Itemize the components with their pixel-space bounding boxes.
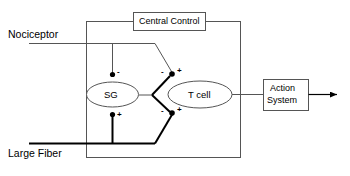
tcell-lower-synapse-dot (169, 110, 175, 116)
action-system-label-line2: System (267, 96, 297, 105)
tcell-upper-minus-sign: - (161, 68, 164, 76)
nociceptor-to-tcell-line (155, 44, 173, 75)
large-fiber-label: Large Fiber (8, 148, 62, 159)
sg-fork-upper-line (152, 76, 170, 95)
action-system-label-line1: Action (270, 84, 295, 93)
sg-bottom-synapse-dot (110, 112, 115, 117)
nociceptor-label: Nociceptor (8, 29, 58, 40)
sg-bottom-sign: + (117, 111, 122, 119)
sg-top-sign: - (117, 68, 120, 76)
sg-top-synapse-dot (110, 72, 115, 77)
sg-label: SG (104, 90, 118, 100)
tcell-upper-synapse-dot (169, 71, 175, 77)
diagram-canvas: Nociceptor Large Fiber Central Control S… (0, 0, 350, 176)
large-fiber-to-tcell-line (155, 113, 173, 144)
t-cell-label: T cell (188, 90, 211, 100)
central-control-label: Central Control (139, 17, 200, 26)
tcell-upper-plus-sign: + (177, 67, 182, 75)
tcell-lower-minus-sign: - (161, 107, 164, 115)
tcell-lower-plus-sign: + (177, 106, 182, 114)
